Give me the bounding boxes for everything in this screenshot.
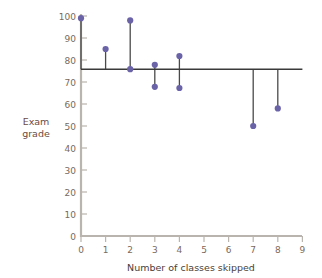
y-tick-label-50: 50 bbox=[65, 122, 77, 132]
data-point bbox=[152, 62, 158, 68]
x-tick-label-8: 8 bbox=[275, 245, 281, 255]
x-tick-label-3: 3 bbox=[152, 245, 158, 255]
data-point bbox=[152, 84, 158, 90]
exam-grade-scatter-chart: 100 90 80 70 60 50 40 30 20 10 0 bbox=[0, 0, 322, 278]
x-axis-group: 0 1 2 3 4 5 6 7 8 9 bbox=[78, 236, 305, 255]
x-tick-label-0: 0 bbox=[78, 245, 84, 255]
data-point bbox=[127, 66, 133, 72]
x-tick-label-7: 7 bbox=[250, 245, 256, 255]
y-tick-label-40: 40 bbox=[65, 144, 77, 154]
y-axis-group: 100 90 80 70 60 50 40 30 20 10 0 bbox=[59, 12, 87, 242]
data-point bbox=[78, 15, 84, 21]
data-point bbox=[103, 46, 109, 52]
x-tick-label-9: 9 bbox=[300, 245, 306, 255]
residual-segments-group bbox=[81, 18, 278, 126]
y-tick-label-10: 10 bbox=[65, 210, 77, 220]
y-tick-label-30: 30 bbox=[65, 166, 77, 176]
y-tick-label-20: 20 bbox=[65, 188, 77, 198]
x-axis-title: Number of classes skipped bbox=[127, 262, 255, 273]
y-tick-label-0: 0 bbox=[70, 232, 76, 242]
x-tick-label-2: 2 bbox=[127, 245, 133, 255]
y-axis-title-line1: Exam bbox=[23, 116, 50, 127]
y-axis-title-line2: grade bbox=[22, 128, 50, 139]
y-tick-label-100: 100 bbox=[59, 12, 76, 22]
x-tick-label-1: 1 bbox=[103, 245, 109, 255]
x-tick-label-6: 6 bbox=[226, 245, 232, 255]
y-tick-label-80: 80 bbox=[65, 56, 77, 66]
y-tick-label-70: 70 bbox=[65, 78, 77, 88]
y-tick-label-60: 60 bbox=[65, 100, 77, 110]
y-tick-label-90: 90 bbox=[65, 34, 77, 44]
x-tick-label-5: 5 bbox=[201, 245, 207, 255]
data-point bbox=[250, 123, 256, 129]
data-point bbox=[176, 53, 182, 59]
data-point bbox=[275, 105, 281, 111]
data-point bbox=[176, 85, 182, 91]
data-point bbox=[127, 17, 133, 23]
chart-canvas: 100 90 80 70 60 50 40 30 20 10 0 bbox=[0, 0, 322, 278]
x-tick-label-4: 4 bbox=[177, 245, 183, 255]
